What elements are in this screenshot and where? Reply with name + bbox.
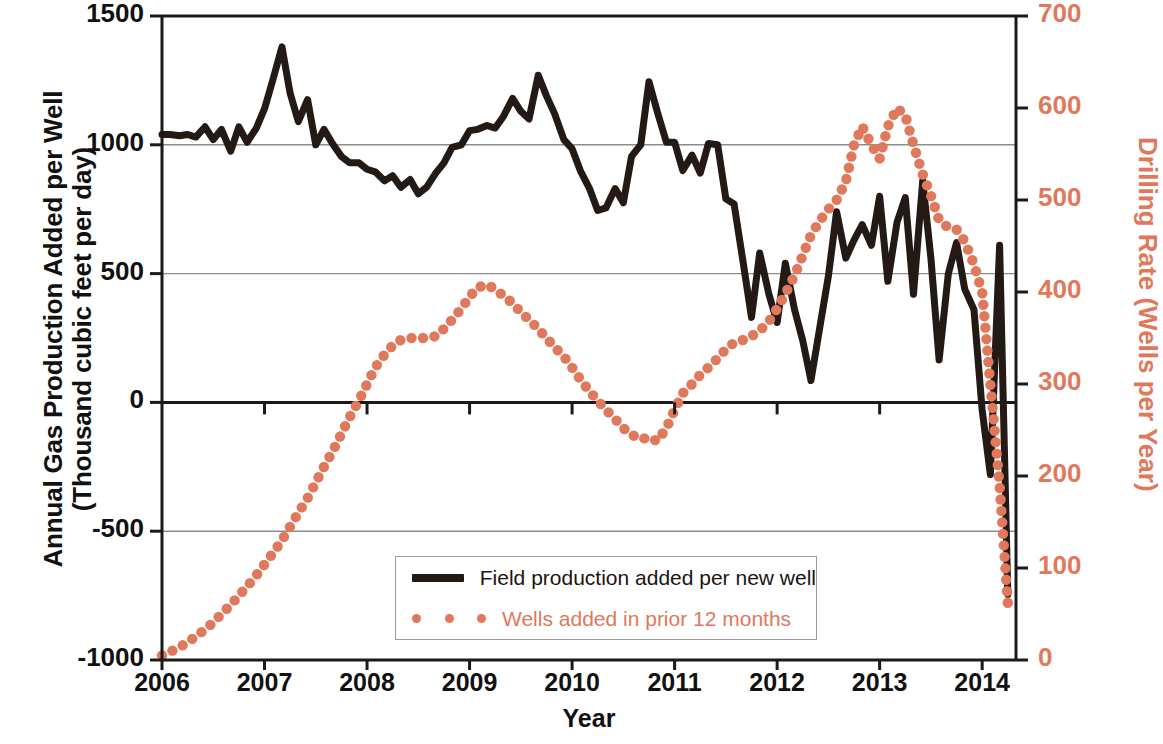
y-axis-left-tick-label: 500 xyxy=(101,256,144,287)
y-axis-right-tick-label: 300 xyxy=(1038,366,1081,397)
dotted-line-swatch-icon xyxy=(412,614,486,623)
legend-item-field-production: Field production added per new well xyxy=(396,557,816,598)
y-axis-left-tick-label: -500 xyxy=(92,513,144,544)
y-axis-left-tick-label: 0 xyxy=(130,384,144,415)
y-axis-right-tick-label: 100 xyxy=(1038,550,1081,581)
y-axis-right-tick-label: 200 xyxy=(1038,458,1081,489)
y-axis-left-tick-label: 1000 xyxy=(86,127,144,158)
y-axis-right-tick-label: 700 xyxy=(1038,0,1081,29)
legend: Field production added per new well Well… xyxy=(395,556,817,640)
y-axis-right-tick-label: 600 xyxy=(1038,90,1081,121)
legend-label-field-production: Field production added per new well xyxy=(480,566,816,590)
solid-line-swatch-icon xyxy=(412,574,464,582)
gridlines xyxy=(162,145,1016,531)
y-axis-right-tick-label: 500 xyxy=(1038,182,1081,213)
legend-label-wells-added: Wells added in prior 12 months xyxy=(502,607,791,631)
x-axis-tick-label: 2014 xyxy=(922,668,1042,697)
y-axis-left-tick-label: 1500 xyxy=(86,0,144,29)
y-axis-right-tick-label: 400 xyxy=(1038,274,1081,305)
legend-item-wells-added: Wells added in prior 12 months xyxy=(396,598,816,639)
